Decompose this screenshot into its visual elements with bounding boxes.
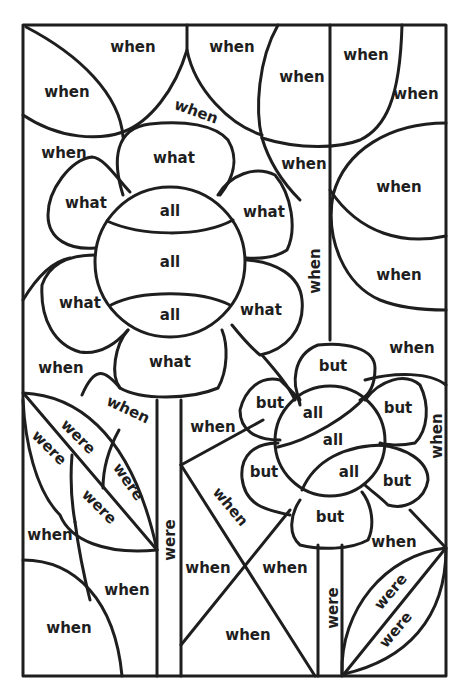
label-x-left[interactable]: when	[185, 559, 230, 577]
label-leaf-left-4[interactable]: were	[78, 486, 120, 528]
label-left-above-flower[interactable]: when	[41, 144, 86, 162]
label-right-lower-circle[interactable]: when	[376, 266, 421, 284]
label-small-flower-right-vertical[interactable]: when	[428, 413, 446, 458]
label-small-petal-upper-right[interactable]: but	[384, 399, 413, 417]
label-bottom-left-mid[interactable]: when	[104, 581, 149, 599]
label-small-center-upper[interactable]: all	[303, 404, 323, 422]
label-leaf-right-1[interactable]: were	[370, 570, 411, 613]
label-right-mid-gap[interactable]: when	[389, 339, 434, 357]
label-x-bottom[interactable]: when	[225, 626, 270, 644]
label-top-left-leaf[interactable]: when	[44, 83, 89, 101]
label-top-circle-left[interactable]: when	[279, 68, 324, 86]
label-middle-between-stems[interactable]: when	[190, 418, 235, 436]
big-center-upper-split	[107, 220, 233, 233]
top-center-cusp-right	[187, 50, 262, 135]
label-big-petal-lower-left[interactable]: what	[59, 294, 101, 312]
label-top-left-corner[interactable]: when	[110, 38, 155, 56]
label-top-center-left[interactable]: when	[209, 38, 254, 56]
label-small-petal-lower-right[interactable]: but	[383, 472, 412, 490]
label-small-center-lower[interactable]: all	[339, 463, 359, 481]
label-small-petal-upper-left[interactable]: but	[256, 394, 285, 412]
label-small-center-middle[interactable]: all	[323, 431, 343, 449]
label-right-upper-circle[interactable]: when	[376, 178, 421, 196]
label-top-right-corner[interactable]: when	[393, 85, 438, 103]
label-stem-left[interactable]: were	[161, 519, 179, 561]
label-leaf-left-3[interactable]: were	[109, 460, 148, 504]
label-small-petal-top[interactable]: but	[319, 357, 348, 375]
top-left-arc	[23, 25, 187, 137]
left-leaf-vein-2	[71, 455, 75, 522]
label-stem-right[interactable]: were	[324, 587, 342, 629]
label-bottom-left-upper[interactable]: when	[27, 526, 72, 544]
label-x-right[interactable]: when	[262, 559, 307, 577]
label-vertical-between[interactable]: when	[306, 248, 324, 293]
label-big-petal-top[interactable]: what	[153, 149, 195, 167]
label-bottom-left-quarter[interactable]: when	[46, 619, 91, 637]
coloring-sheet: when when when when when when when when …	[0, 0, 460, 688]
label-big-petal-lower-right[interactable]: what	[240, 301, 282, 319]
big-center-lower-split	[111, 294, 230, 305]
label-big-center-bottom[interactable]: all	[160, 306, 180, 324]
label-big-petal-bottom[interactable]: what	[149, 353, 191, 371]
label-big-center-middle[interactable]: all	[160, 253, 180, 271]
label-small-petal-bottom[interactable]: but	[316, 508, 345, 526]
label-top-circle-right[interactable]: when	[343, 46, 388, 64]
label-center-gap-below-circle[interactable]: when	[281, 155, 326, 173]
label-big-center-top[interactable]: all	[160, 202, 180, 220]
label-small-petal-lower-left[interactable]: but	[250, 463, 279, 481]
label-left-below-flower[interactable]: when	[38, 359, 83, 377]
right-circle-split	[330, 190, 446, 239]
label-big-petal-upper-right[interactable]: what	[243, 203, 285, 221]
label-big-petal-upper-left[interactable]: what	[65, 194, 107, 212]
label-small-flower-lower-right[interactable]: when	[371, 533, 416, 551]
